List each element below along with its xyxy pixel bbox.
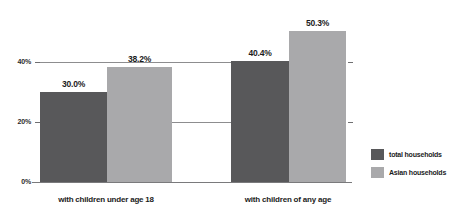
legend-swatch-total-households: [371, 149, 384, 160]
bar-value-total-children-any-age: 40.4%: [229, 48, 291, 58]
bar-value-asian-children-any-age: 50.3%: [288, 18, 347, 28]
ytick-label-20: 20%: [9, 118, 31, 125]
legend-label-total-households: total households: [389, 151, 442, 158]
axis-baseline: [32, 182, 352, 183]
legend-item-asian-households[interactable]: Asian households: [371, 164, 446, 180]
category-label-children-under-18: with children under age 18: [26, 195, 186, 204]
bar-value-asian-children-under-18: 38.2%: [107, 54, 172, 64]
ytick-mark-40: [35, 62, 40, 63]
ytick-mark-right-40: [348, 62, 353, 63]
ytick-label-0: 0%: [9, 178, 31, 185]
bar-asian-children-any-age[interactable]: [289, 31, 346, 182]
plot-area: 40% 20% 0% 30.0% 38.2% 40.4% 50.3% with …: [0, 0, 457, 218]
ytick-label-40: 40%: [9, 58, 31, 65]
legend-swatch-asian-households: [371, 167, 384, 178]
bar-asian-children-under-18[interactable]: [107, 67, 172, 182]
legend: total households Asian households: [371, 146, 446, 182]
category-label-children-any-age: with children of any age: [218, 195, 358, 204]
bar-total-children-under-18[interactable]: [40, 92, 107, 182]
bar-total-children-any-age[interactable]: [231, 61, 289, 182]
ytick-mark-right-20: [348, 122, 353, 123]
legend-label-asian-households: Asian households: [389, 169, 446, 176]
legend-item-total-households[interactable]: total households: [371, 146, 446, 162]
bar-value-total-children-under-18: 30.0%: [40, 79, 107, 89]
bar-chart: 40% 20% 0% 30.0% 38.2% 40.4% 50.3% with …: [0, 0, 457, 218]
